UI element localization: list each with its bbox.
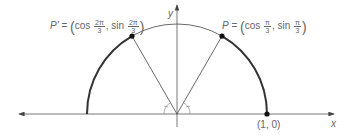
arc-thick-left [87,36,132,114]
point-one-zero-label: (1, 0) [257,120,280,130]
sin-text: sin [111,20,124,31]
fraction: 2π3 [94,19,105,34]
angle-mark-left [164,103,171,114]
fraction: π3 [294,19,301,34]
point-one-zero [264,111,269,116]
rparen: ) [302,19,307,35]
p-prime-eq: = [61,20,67,31]
angle-mark-right [184,103,191,114]
fraction: π3 [264,19,271,34]
point-P-label: P = (cos π3, sin π3) [222,19,307,34]
p-name: P [222,20,229,31]
y-axis-label: y [168,9,173,19]
point-P-prime [129,33,134,38]
sin-text: sin [278,20,291,31]
arc-thick-right [222,36,267,114]
rparen: ) [140,19,145,35]
cos-text: cos [75,20,91,31]
p-prime-name: P' [50,20,59,31]
x-axis-label: x [331,119,336,129]
radius-to-P-prime [132,36,177,114]
point-P [219,33,224,38]
radius-to-P [177,36,222,114]
point-P-prime-label: P' = (cos 2π3, sin 2π3) [50,19,144,34]
fraction: 2π3 [128,19,139,34]
p-eq: = [231,20,237,31]
cos-text: cos [245,20,261,31]
